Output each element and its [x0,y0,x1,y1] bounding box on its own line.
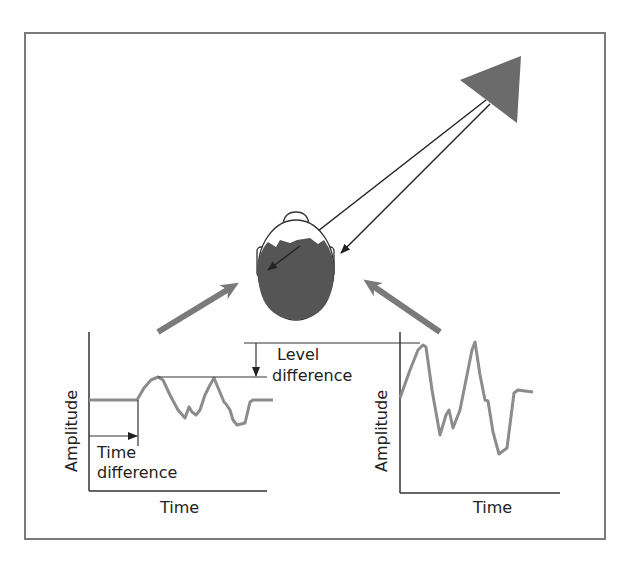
right-plot-waveform [400,342,533,454]
right-plot [400,332,560,493]
right-big-arrow-icon [370,284,440,332]
left-plot-ylabel: Amplitude [62,390,81,472]
left-plot-xlabel: Time [160,498,199,517]
right-plot-ylabel: Amplitude [372,390,391,472]
right-plot-xlabel: Time [473,498,512,517]
left-big-arrow-icon [158,287,232,332]
difference-label-time: difference [97,463,177,482]
difference-label-level: difference [272,366,352,385]
sound-path-to-right-ear [341,104,490,253]
level-label: Level [277,345,319,364]
time-label: Time [97,443,136,462]
diagram-canvas [0,0,628,570]
left-plot-waveform [89,377,273,425]
